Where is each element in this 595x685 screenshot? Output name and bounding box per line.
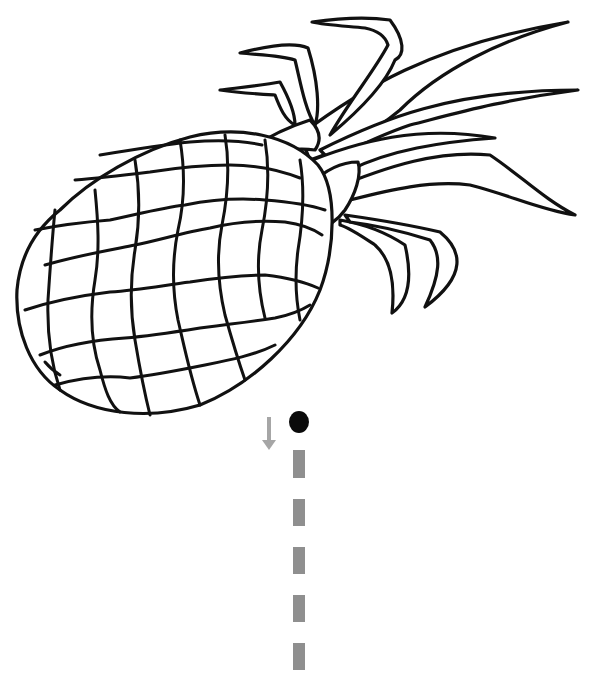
trace-dash bbox=[293, 547, 305, 574]
worksheet-canvas bbox=[0, 0, 595, 685]
pineapple-fruit bbox=[17, 132, 332, 415]
trace-dash bbox=[293, 499, 305, 526]
trace-dash bbox=[293, 450, 305, 478]
trace-dash bbox=[293, 643, 305, 670]
trace-dash bbox=[293, 595, 305, 622]
pineapple-illustration bbox=[0, 0, 595, 685]
trace-start-dot[interactable] bbox=[289, 411, 309, 433]
arrow-down-icon bbox=[262, 415, 276, 453]
